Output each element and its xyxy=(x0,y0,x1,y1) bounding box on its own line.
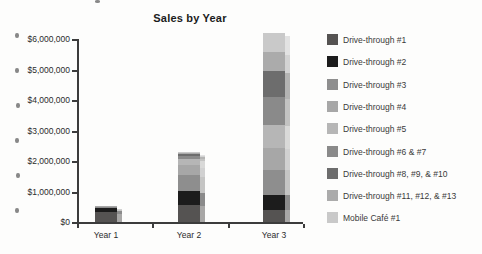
x-category-label: Year 3 xyxy=(252,230,296,240)
legend-label: Drive-through #6 & #7 xyxy=(343,147,426,157)
bar-highlight-segment xyxy=(285,195,290,210)
legend-swatch xyxy=(327,190,338,201)
bar-segment xyxy=(263,52,285,71)
y-tick-mark xyxy=(72,70,77,72)
bar-segment xyxy=(178,175,200,191)
bar-segment xyxy=(263,71,285,97)
scan-artifact xyxy=(16,173,20,178)
scan-artifact xyxy=(15,138,19,143)
bar-segment xyxy=(178,165,200,175)
x-axis xyxy=(77,222,303,224)
chart-canvas: Sales by Year $0$1,000,000$2,000,000$3,0… xyxy=(0,0,482,254)
bar-segment xyxy=(178,205,200,222)
y-tick-mark xyxy=(72,100,77,102)
y-tick-label: $1,000,000 xyxy=(16,188,70,197)
bar-highlight-segment xyxy=(285,126,290,149)
scan-artifact xyxy=(16,103,20,108)
y-tick-label: $6,000,000 xyxy=(16,35,70,44)
y-tick-label: $2,000,000 xyxy=(16,157,70,166)
bar-highlight-strip xyxy=(200,155,205,222)
bar-highlight-segment xyxy=(200,206,205,222)
bar-highlight-segment xyxy=(200,177,205,192)
bar-highlight-segment xyxy=(285,170,290,195)
y-tick-label: $4,000,000 xyxy=(16,96,70,105)
legend-swatch xyxy=(327,56,338,67)
y-tick-label: $0 xyxy=(16,218,70,227)
bar-highlight-strip xyxy=(285,36,290,222)
legend-label: Drive-through #2 xyxy=(343,57,406,67)
y-tick-mark xyxy=(72,39,77,41)
x-tick-mark xyxy=(77,224,79,228)
x-tick-mark xyxy=(303,224,305,228)
y-tick-mark xyxy=(72,192,77,194)
legend-label: Drive-through #4 xyxy=(343,102,406,112)
x-category-label: Year 1 xyxy=(84,230,128,240)
legend-label: Drive-through #11, #12, & #13 xyxy=(343,191,456,201)
y-tick-mark xyxy=(72,131,77,133)
bar-highlight-segment xyxy=(117,214,122,222)
bar-segment xyxy=(263,97,285,125)
bar xyxy=(263,33,285,222)
bar-segment xyxy=(178,159,200,166)
bar-highlight-segment xyxy=(285,36,290,55)
bar-highlight-segment xyxy=(285,73,290,99)
bar-highlight-strip xyxy=(117,209,122,222)
legend-swatch xyxy=(327,34,338,45)
legend-label: Drive-through #1 xyxy=(343,35,406,45)
bar-segment xyxy=(178,191,200,205)
scan-artifact xyxy=(95,0,100,3)
legend-label: Drive-through #3 xyxy=(343,80,406,90)
legend-swatch xyxy=(327,146,338,157)
bar-segment xyxy=(263,195,285,210)
legend-swatch xyxy=(327,79,338,90)
legend-swatch xyxy=(327,168,338,179)
bar-highlight-segment xyxy=(200,168,205,178)
y-axis xyxy=(77,39,79,224)
bar xyxy=(95,206,117,222)
legend-swatch xyxy=(327,123,338,134)
scan-artifact xyxy=(15,208,19,213)
bar-segment xyxy=(263,125,285,148)
y-tick-label: $3,000,000 xyxy=(16,127,70,136)
bar-highlight-segment xyxy=(285,55,290,74)
legend-label: Drive-through #5 xyxy=(343,124,406,134)
y-tick-label: $5,000,000 xyxy=(16,66,70,75)
legend-label: Drive-through #8, #9, & #10 xyxy=(343,169,447,179)
page-title: Sales by Year xyxy=(77,12,303,24)
bar-segment xyxy=(95,212,117,222)
scan-artifact xyxy=(15,33,19,38)
legend-label: Mobile Café #1 xyxy=(343,213,400,223)
bar-highlight-segment xyxy=(285,149,290,171)
x-tick-mark xyxy=(228,224,230,228)
bar-highlight-segment xyxy=(285,210,290,222)
y-tick-mark xyxy=(72,161,77,163)
bar-segment xyxy=(263,210,285,222)
x-category-label: Year 2 xyxy=(167,230,211,240)
bar-segment xyxy=(263,33,285,52)
bar-highlight-segment xyxy=(285,99,290,127)
x-tick-mark xyxy=(152,224,154,228)
bar xyxy=(178,152,200,222)
legend-swatch xyxy=(327,101,338,112)
legend-swatch xyxy=(327,212,338,223)
bar-highlight-segment xyxy=(200,193,205,206)
scan-artifact xyxy=(15,68,19,73)
bar-segment xyxy=(263,148,285,170)
bar-segment xyxy=(263,170,285,195)
